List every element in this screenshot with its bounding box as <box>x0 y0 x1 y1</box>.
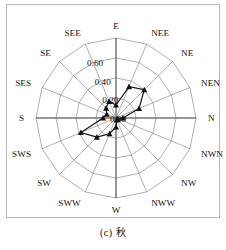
spoke-NWW <box>116 118 147 192</box>
direction-label-SEE: SEE <box>64 28 81 38</box>
radar-chart: 0.000.200.400.60 ENEENENENNNWNNWNWWWSWWS… <box>0 0 226 220</box>
data-series <box>78 84 147 140</box>
radial-tick-0.40: 0.40 <box>95 77 111 87</box>
direction-label-NWN: NWN <box>201 149 223 159</box>
direction-label-SW: SW <box>37 178 51 188</box>
radial-tick-0.60: 0.60 <box>87 58 103 68</box>
figure-caption: (c) 秋 <box>0 224 226 239</box>
spoke-NWN <box>116 118 190 149</box>
direction-label-NEE: NEE <box>151 28 169 38</box>
direction-label-NEN: NEN <box>201 78 220 88</box>
figure-panel: 0.000.200.400.60 ENEENENENNNWNNWNWWWSWWS… <box>0 0 226 250</box>
spoke-SW <box>59 118 116 175</box>
direction-label-E: E <box>113 21 119 31</box>
spoke-NW <box>116 118 173 175</box>
data-point-NEN <box>136 105 142 111</box>
data-point-SES <box>104 111 110 117</box>
direction-label-N: N <box>208 113 215 123</box>
direction-label-NWW: NWW <box>151 198 175 208</box>
data-point-W <box>113 124 119 130</box>
direction-label-W: W <box>112 205 121 215</box>
spoke-SWW <box>85 118 116 192</box>
direction-label-SES: SES <box>15 78 31 88</box>
spoke-NEN <box>116 87 190 118</box>
direction-label-SWS: SWS <box>12 149 31 159</box>
direction-label-SWW: SWW <box>58 198 81 208</box>
direction-label-NW: NW <box>181 178 197 188</box>
spoke-NEE <box>116 44 147 118</box>
data-point-NEE <box>126 84 132 90</box>
direction-label-S: S <box>19 113 24 123</box>
direction-label-NE: NE <box>181 48 194 58</box>
direction-label-SE: SE <box>40 48 51 58</box>
